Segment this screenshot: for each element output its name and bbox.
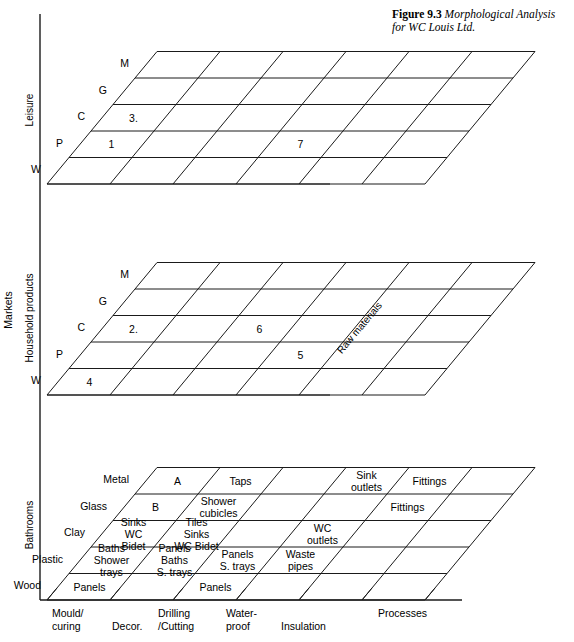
x-axis-tick bbox=[425, 588, 435, 600]
depth-label-p: P bbox=[56, 137, 63, 149]
cell-value: Baths bbox=[161, 554, 188, 566]
y-label-leisure: Leisure bbox=[24, 93, 35, 126]
cell-value: S. trays bbox=[157, 566, 193, 578]
cell-value: 3. bbox=[129, 112, 138, 124]
grid-column-line bbox=[299, 52, 409, 185]
depth-label-wood: Wood bbox=[14, 579, 41, 591]
cell-value: S. trays bbox=[220, 560, 256, 572]
depth-label-metal: Metal bbox=[103, 473, 129, 485]
cell-value: 2. bbox=[129, 323, 138, 335]
figure-root: WPCGM13.7WPCGM42.65WoodPlasticClayGlassM… bbox=[0, 0, 574, 642]
grid-column-line bbox=[47, 263, 157, 396]
depth-axis-label: Raw materials bbox=[335, 300, 384, 356]
x-tick-label: Drilling bbox=[158, 607, 190, 619]
depth-label-g: G bbox=[99, 295, 107, 307]
cell-value: outlets bbox=[351, 481, 382, 493]
cell-value: Panels bbox=[221, 548, 253, 560]
depth-label-glass: Glass bbox=[80, 500, 107, 512]
cell-value: Waste bbox=[286, 548, 316, 560]
panel-leisure: WPCGM13.7 bbox=[31, 52, 535, 185]
grid-column-line bbox=[173, 52, 283, 185]
cell-value: Bidet bbox=[122, 540, 146, 552]
morphological-analysis-diagram: WPCGM13.7WPCGM42.65WoodPlasticClayGlassM… bbox=[0, 0, 574, 642]
cell-value: WC bbox=[125, 528, 143, 540]
y-axis-outer-label: Markets bbox=[2, 291, 14, 328]
cell-value: 7 bbox=[298, 138, 304, 150]
x-axis-tick bbox=[47, 588, 57, 600]
x-axis-title: Processes bbox=[378, 607, 427, 619]
x-axis-tick bbox=[110, 588, 120, 600]
cell-value: Sinks bbox=[121, 516, 147, 528]
cell-value: Sink bbox=[356, 469, 377, 481]
grid-column-line bbox=[236, 52, 346, 185]
grid-column-line bbox=[362, 263, 472, 396]
cell-value: Sinks bbox=[184, 528, 210, 540]
cell-value: outlets bbox=[307, 534, 338, 546]
grid-column-line bbox=[47, 52, 157, 185]
depth-label-m: M bbox=[120, 268, 129, 280]
cell-value: 4 bbox=[87, 376, 93, 388]
y-label-bathrooms: Bathrooms bbox=[24, 501, 35, 549]
x-axis-tick bbox=[236, 588, 246, 600]
depth-label-plastic: Plastic bbox=[32, 553, 63, 565]
x-axis-tick bbox=[362, 588, 372, 600]
depth-label-g: G bbox=[99, 84, 107, 96]
cell-value: 6 bbox=[257, 323, 263, 335]
figure-caption: Figure 9.3 Morphological Analysis for WC… bbox=[392, 8, 570, 34]
cell-value: WC Bidet bbox=[174, 540, 218, 552]
cell-value: WC bbox=[314, 522, 332, 534]
cell-value: Shower bbox=[201, 495, 237, 507]
cell-value: Panels bbox=[73, 581, 105, 593]
panel-bathrooms: WoodPlasticClayGlassMetalPanelsPanelsBat… bbox=[14, 468, 535, 601]
x-axis-tick bbox=[299, 588, 309, 600]
grid-column-line bbox=[425, 263, 535, 396]
x-axis-tick bbox=[173, 588, 183, 600]
y-label-household-products: Household products bbox=[24, 274, 35, 363]
grid-column-line bbox=[425, 52, 535, 185]
cell-value: 5 bbox=[298, 349, 304, 361]
cell-value: cubicles bbox=[200, 507, 238, 519]
cell-value: A bbox=[174, 475, 181, 487]
x-tick-label: curing bbox=[52, 620, 81, 632]
figure-caption-number: 9.3 bbox=[427, 8, 441, 20]
grid-column-line bbox=[173, 263, 283, 396]
x-tick-label: proof bbox=[226, 620, 250, 632]
cell-value: Fittings bbox=[391, 501, 425, 513]
x-tick-label: /Cutting bbox=[158, 620, 194, 632]
depth-label-c: C bbox=[77, 110, 85, 122]
x-tick-label: Decor. bbox=[112, 620, 142, 632]
figure-caption-label: Figure bbox=[392, 8, 424, 20]
panel-household-products: WPCGM42.65 bbox=[31, 263, 535, 396]
cell-value: B bbox=[152, 501, 159, 513]
cell-value: trays bbox=[100, 566, 123, 578]
depth-label-clay: Clay bbox=[64, 526, 86, 538]
depth-label-m: M bbox=[120, 57, 129, 69]
depth-label-c: C bbox=[77, 321, 85, 333]
grid-column-line bbox=[362, 52, 472, 185]
grid-column-line bbox=[110, 263, 220, 396]
grid-column-line bbox=[110, 52, 220, 185]
cell-value: pipes bbox=[288, 560, 313, 572]
cell-value: Fittings bbox=[413, 475, 447, 487]
cell-value: Panels bbox=[199, 581, 231, 593]
grid-column-line bbox=[425, 468, 535, 601]
cell-value: Taps bbox=[229, 475, 251, 487]
x-tick-label: Water- bbox=[226, 607, 258, 619]
cell-value: 1 bbox=[109, 138, 115, 150]
cell-value: Shower bbox=[94, 554, 130, 566]
x-tick-label: Insulation bbox=[281, 620, 326, 632]
grid-column-line bbox=[236, 263, 346, 396]
x-tick-label: Mould/ bbox=[52, 607, 84, 619]
depth-label-p: P bbox=[56, 348, 63, 360]
